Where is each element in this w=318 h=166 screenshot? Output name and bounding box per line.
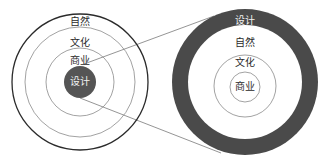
left-label-nature: 自然 xyxy=(70,15,90,27)
right-label-culture: 文化 xyxy=(235,56,255,68)
design-concentric-diagram: 自然 文化 商业 设计 设计 自然 文化 商业 xyxy=(0,0,318,166)
right-label-design: 设计 xyxy=(235,14,255,26)
left-label-design: 设计 xyxy=(70,75,90,87)
left-diagram: 自然 文化 商业 设计 xyxy=(12,14,148,150)
right-label-nature: 自然 xyxy=(235,36,255,48)
left-label-business: 商业 xyxy=(70,54,90,66)
right-diagram: 设计 自然 文化 商业 xyxy=(172,9,318,155)
right-label-business: 商业 xyxy=(235,80,255,92)
left-label-culture: 文化 xyxy=(70,36,90,48)
